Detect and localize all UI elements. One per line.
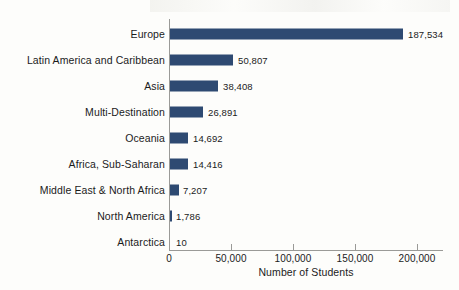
x-tick-mark xyxy=(355,244,356,250)
chart-row: Multi-Destination 26,891 xyxy=(0,99,459,125)
bar xyxy=(170,29,403,40)
x-tick-mark xyxy=(231,244,232,250)
chart-row: Europe 187,534 xyxy=(0,21,459,47)
value-label: 14,416 xyxy=(193,159,223,170)
x-tick-label: 200,000 xyxy=(399,253,436,264)
x-tick-mark xyxy=(293,244,294,250)
bar xyxy=(170,185,179,196)
chart-row: Oceania 14,692 xyxy=(0,125,459,151)
value-label: 26,891 xyxy=(208,107,238,118)
category-label: Asia xyxy=(144,80,165,92)
x-tick-label: 50,000 xyxy=(215,253,246,264)
bar xyxy=(170,81,218,92)
value-label: 10 xyxy=(176,237,187,248)
value-label: 14,692 xyxy=(193,133,223,144)
chart-row: Asia 38,408 xyxy=(0,73,459,99)
bar xyxy=(170,107,203,118)
bar xyxy=(170,211,172,222)
value-label: 50,807 xyxy=(238,55,268,66)
chart-row: Antarctica 10 xyxy=(0,229,459,255)
category-label: Antarctica xyxy=(117,236,165,248)
x-tick-mark xyxy=(417,244,418,250)
x-axis-title: Number of Students xyxy=(169,266,443,278)
bar xyxy=(170,55,233,66)
category-label: North America xyxy=(97,210,165,222)
x-tick-label: 100,000 xyxy=(275,253,312,264)
bar-chart-figure: Europe 187,534 Latin America and Caribbe… xyxy=(0,0,459,290)
x-tick-label: 150,000 xyxy=(337,253,374,264)
plot-area: Europe 187,534 Latin America and Caribbe… xyxy=(0,0,459,290)
value-label: 187,534 xyxy=(408,29,443,40)
value-label: 38,408 xyxy=(223,81,253,92)
category-label: Latin America and Caribbean xyxy=(27,54,165,66)
category-label: Africa, Sub-Saharan xyxy=(69,158,165,170)
category-label: Middle East & North Africa xyxy=(40,184,165,196)
value-label: 7,207 xyxy=(183,185,207,196)
chart-row: Middle East & North Africa 7,207 xyxy=(0,177,459,203)
category-label: Europe xyxy=(131,28,165,40)
chart-row: North America 1,786 xyxy=(0,203,459,229)
chart-row: Latin America and Caribbean 50,807 xyxy=(0,47,459,73)
x-tick-mark xyxy=(169,244,170,250)
x-tick-label: 0 xyxy=(166,253,172,264)
category-label: Oceania xyxy=(125,132,165,144)
chart-row: Africa, Sub-Saharan 14,416 xyxy=(0,151,459,177)
bar xyxy=(170,159,188,170)
category-label: Multi-Destination xyxy=(85,106,165,118)
bar xyxy=(170,133,188,144)
value-label: 1,786 xyxy=(176,211,200,222)
